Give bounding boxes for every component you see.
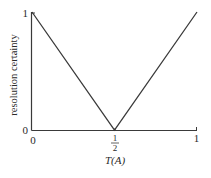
x-axis-title: T(A) bbox=[105, 154, 126, 167]
y-tick-label-1: 1 bbox=[23, 7, 29, 19]
y-tick-label-0: 0 bbox=[23, 124, 29, 136]
x-tick-label-half-numerator: 1 bbox=[113, 133, 118, 143]
data-series-line bbox=[32, 12, 197, 130]
x-tick-label-0: 0 bbox=[30, 134, 36, 146]
y-axis-title: resolution certainty bbox=[8, 34, 19, 116]
x-tick-label-1: 1 bbox=[194, 132, 200, 144]
x-tick-label-half-denominator: 2 bbox=[113, 143, 118, 153]
chart-canvas: 1 0 0 1 2 1 T(A) resolution certainty bbox=[0, 0, 211, 178]
